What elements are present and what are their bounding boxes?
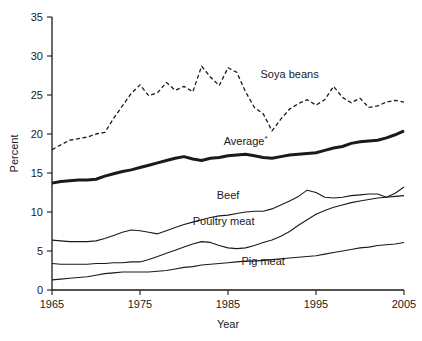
series-label-beef: Beef — [217, 189, 241, 201]
series-label-pig-meat: Pig meat — [241, 255, 284, 267]
y-tick-label-25: 25 — [31, 89, 43, 101]
y-tick-label-30: 30 — [31, 50, 43, 62]
series-label-group: Soya beansAverage*BeefPoultry meatPig me… — [193, 68, 319, 267]
y-tick-label-35: 35 — [31, 11, 43, 23]
y-tick-label-15: 15 — [31, 167, 43, 179]
y-tick-label-0: 0 — [37, 284, 43, 296]
data-series-group — [52, 66, 404, 280]
chart-container: 05101520253035 19651975198519952005 Soya… — [0, 0, 422, 341]
x-tick-label-1965: 1965 — [40, 298, 64, 310]
series-label-average: Average* — [224, 134, 268, 147]
series-label-poultry-meat: Poultry meat — [193, 215, 255, 227]
x-axis-title: Year — [217, 318, 240, 330]
x-tick-label-2005: 2005 — [392, 298, 416, 310]
x-tick-label-1975: 1975 — [128, 298, 152, 310]
y-axis-title: Percent — [8, 135, 20, 173]
x-axis-ticks: 19651975198519952005 — [40, 290, 416, 310]
series-line-poultry-meat — [52, 196, 404, 265]
y-tick-label-20: 20 — [31, 128, 43, 140]
series-label-soya-beans: Soya beans — [261, 68, 320, 80]
line-chart: 05101520253035 19651975198519952005 Soya… — [0, 0, 422, 341]
x-tick-label-1995: 1995 — [304, 298, 328, 310]
y-axis-ticks: 05101520253035 — [31, 11, 52, 296]
y-tick-label-5: 5 — [37, 245, 43, 257]
x-tick-label-1985: 1985 — [216, 298, 240, 310]
y-tick-label-10: 10 — [31, 206, 43, 218]
